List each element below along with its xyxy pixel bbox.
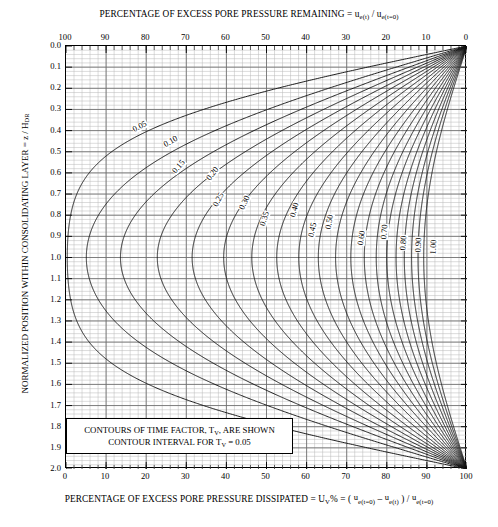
y-tick-2-0: 2.0 <box>50 463 61 473</box>
x-bottom-tick-40: 40 <box>221 471 230 481</box>
y-tick-1-6: 1.6 <box>50 378 61 388</box>
legend-box: CONTOURS OF TIME FACTOR, TV, ARE SHOWN C… <box>66 418 293 454</box>
y-tick-1-2: 1.2 <box>50 294 61 304</box>
y-tick-1-7: 1.7 <box>50 400 61 410</box>
bottom-axis-formula: UV% = ( ue(t=0) – ue(t) ) / ue(t=0) <box>318 494 433 504</box>
y-tick-0-8: 0.8 <box>50 209 61 219</box>
x-bottom-tick-70: 70 <box>341 471 350 481</box>
x-top-tick-40: 40 <box>301 32 310 42</box>
y-tick-1-5: 1.5 <box>50 357 61 367</box>
left-axis-title-sub: DR <box>23 113 30 122</box>
left-axis-title-text: NORMALIZED POSITION WITHIN CONSOLIDATING… <box>20 122 30 393</box>
y-tick-0-3: 0.3 <box>50 103 61 113</box>
top-axis-formula: ue(t) / ue(t=0) <box>355 9 399 19</box>
contour-label-1-00: 1.00 <box>430 239 439 255</box>
x-top-tick-70: 70 <box>181 32 190 42</box>
legend-line-2: CONTOUR INTERVAL FOR TV = 0.05 <box>108 437 250 448</box>
x-bottom-tick-10: 10 <box>101 471 110 481</box>
x-bottom-tick-60: 60 <box>301 471 310 481</box>
y-tick-0-2: 0.2 <box>50 82 61 92</box>
x-top-tick-50: 50 <box>261 32 270 42</box>
x-bottom-tick-90: 90 <box>422 471 431 481</box>
legend-line-1: CONTOURS OF TIME FACTOR, TV, ARE SHOWN <box>84 425 275 436</box>
y-tick-1-3: 1.3 <box>50 315 61 325</box>
contour-label-0-90: 0.90 <box>414 237 423 253</box>
x-top-tick-80: 80 <box>141 32 150 42</box>
grid-and-contours <box>66 46 467 469</box>
y-tick-0-7: 0.7 <box>50 188 61 198</box>
top-axis-title: PERCENTAGE OF EXCESS PORE PRESSURE REMAI… <box>0 9 498 20</box>
x-top-tick-10: 10 <box>422 32 431 42</box>
x-top-tick-90: 90 <box>101 32 110 42</box>
y-tick-1-9: 1.9 <box>50 442 61 452</box>
x-top-tick-0: 0 <box>464 32 468 42</box>
consolidation-isochrone-figure: PERCENTAGE OF EXCESS PORE PRESSURE REMAI… <box>0 0 498 527</box>
bottom-axis-title-text: PERCENTAGE OF EXCESS PORE PRESSURE DISSI… <box>65 494 319 504</box>
contour-label-0-70: 0.70 <box>380 224 390 240</box>
y-tick-1-4: 1.4 <box>50 336 61 346</box>
x-bottom-tick-0: 0 <box>63 471 67 481</box>
y-tick-0-9: 0.9 <box>50 230 61 240</box>
y-tick-0-6: 0.6 <box>50 167 61 177</box>
x-top-tick-30: 30 <box>341 32 350 42</box>
bottom-axis-title: PERCENTAGE OF EXCESS PORE PRESSURE DISSI… <box>0 492 498 504</box>
top-axis-title-text: PERCENTAGE OF EXCESS PORE PRESSURE REMAI… <box>99 9 354 19</box>
plot-area <box>65 45 466 468</box>
x-top-tick-60: 60 <box>221 32 230 42</box>
y-tick-0-1: 0.1 <box>50 61 61 71</box>
x-bottom-tick-50: 50 <box>261 471 270 481</box>
contour-label-0-80: 0.80 <box>399 235 408 251</box>
x-bottom-tick-100: 100 <box>460 471 473 481</box>
x-bottom-tick-20: 20 <box>141 471 150 481</box>
y-tick-0-0: 0.0 <box>50 40 61 50</box>
y-tick-0-4: 0.4 <box>50 125 61 135</box>
y-tick-1-8: 1.8 <box>50 421 61 431</box>
y-tick-0-5: 0.5 <box>50 146 61 156</box>
x-bottom-tick-30: 30 <box>181 471 190 481</box>
x-top-tick-20: 20 <box>382 32 391 42</box>
x-bottom-tick-80: 80 <box>382 471 391 481</box>
y-tick-1-1: 1.1 <box>50 273 61 283</box>
y-tick-1-0: 1.0 <box>50 252 61 262</box>
left-axis-title: NORMALIZED POSITION WITHIN CONSOLIDATING… <box>20 83 31 423</box>
